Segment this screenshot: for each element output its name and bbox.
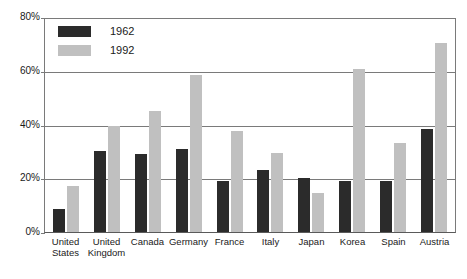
- bar-1962: [53, 209, 65, 232]
- x-axis-category-label: Germany: [168, 236, 209, 258]
- x-axis-label-line: Canada: [127, 236, 168, 247]
- y-axis-label: 40%: [6, 120, 40, 130]
- x-axis-category-label: Korea: [332, 236, 373, 258]
- x-axis-category-label: UnitedStates: [45, 236, 86, 258]
- x-axis-category-label: Japan: [291, 236, 332, 258]
- x-axis-category-label: France: [209, 236, 250, 258]
- y-axis-label: 60%: [6, 66, 40, 76]
- bar-1992: [190, 75, 202, 232]
- bar-group: [209, 20, 250, 232]
- y-axis-tick: [41, 18, 45, 19]
- x-axis-category-label: UnitedKingdom: [86, 236, 127, 258]
- x-axis-category-label: Italy: [250, 236, 291, 258]
- x-axis-label-line: Germany: [168, 236, 209, 247]
- chart-legend: 19621992: [58, 22, 134, 60]
- x-axis-label-line: States: [45, 247, 86, 258]
- bar-1992: [67, 186, 79, 232]
- legend-entry: 1992: [58, 41, 134, 60]
- bar-1992: [435, 43, 447, 232]
- legend-label: 1992: [110, 45, 134, 56]
- bar-group: [250, 20, 291, 232]
- bar-1992: [149, 111, 161, 232]
- bar-1962: [135, 154, 147, 232]
- bar-1992: [231, 131, 243, 232]
- bar-1962: [298, 178, 310, 232]
- x-axis-label-line: United: [86, 236, 127, 247]
- legend-swatch: [58, 45, 91, 56]
- x-axis-labels: UnitedStatesUnitedKingdomCanadaGermanyFr…: [45, 236, 455, 258]
- x-axis-label-line: Japan: [291, 236, 332, 247]
- gridline: [45, 18, 455, 19]
- bar-1962: [421, 129, 433, 232]
- bar-group: [413, 20, 454, 232]
- bar-1962: [94, 151, 106, 232]
- legend-label: 1962: [110, 26, 134, 37]
- x-axis-label-line: France: [209, 236, 250, 247]
- x-axis-category-label: Austria: [414, 236, 455, 258]
- x-axis-category-label: Spain: [373, 236, 414, 258]
- y-axis-tick: [41, 179, 45, 180]
- x-axis-label-line: United: [45, 236, 86, 247]
- y-axis-tick: [41, 233, 45, 234]
- bar-group: [372, 20, 413, 232]
- bar-1962: [380, 181, 392, 232]
- chart-title-cropped: [18, 0, 318, 7]
- bar-group: [168, 20, 209, 232]
- y-axis-label: 20%: [6, 173, 40, 183]
- bar-1992: [312, 193, 324, 232]
- y-axis-label: 0%: [6, 227, 40, 237]
- x-axis-label-line: Austria: [414, 236, 455, 247]
- y-axis-labels: 0%20%40%60%80%: [0, 18, 40, 233]
- bar-group: [291, 20, 332, 232]
- y-axis-label: 80%: [6, 12, 40, 22]
- x-axis-category-label: Canada: [127, 236, 168, 258]
- bar-1992: [271, 153, 283, 232]
- bar-chart-figure: 0%20%40%60%80% UnitedStatesUnitedKingdom…: [0, 0, 467, 279]
- bar-group: [332, 20, 373, 232]
- x-axis-label-line: Kingdom: [86, 247, 127, 258]
- bar-1992: [108, 126, 120, 232]
- bar-1992: [394, 143, 406, 232]
- bar-1962: [257, 170, 269, 232]
- bar-1992: [353, 69, 365, 232]
- y-axis-tick: [41, 126, 45, 127]
- x-axis-label-line: Italy: [250, 236, 291, 247]
- bar-1962: [339, 181, 351, 232]
- legend-entry: 1962: [58, 22, 134, 41]
- x-axis-label-line: Spain: [373, 236, 414, 247]
- bar-1962: [176, 149, 188, 232]
- legend-swatch: [58, 26, 91, 37]
- y-axis-tick: [41, 72, 45, 73]
- bar-1962: [217, 181, 229, 232]
- x-axis-label-line: Korea: [332, 236, 373, 247]
